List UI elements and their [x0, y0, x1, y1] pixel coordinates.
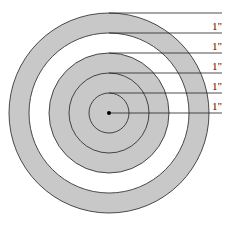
dimension-label: 1" [212, 20, 222, 32]
dimension-label: 1" [212, 60, 222, 72]
center-dot [107, 111, 111, 115]
target-diagram: 1"1"1"1"1" [0, 0, 235, 226]
dimension-label: 1" [212, 100, 222, 112]
dimension-label: 1" [212, 80, 222, 92]
dimension-label: 1" [212, 40, 222, 52]
